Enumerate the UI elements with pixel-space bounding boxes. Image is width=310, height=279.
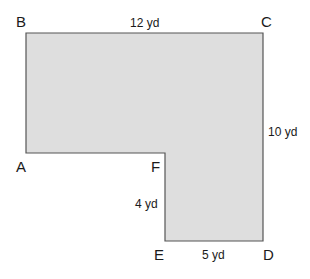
measure-cd: 10 yd — [268, 126, 297, 138]
vertex-label-f: F — [151, 159, 160, 174]
vertex-label-b: B — [16, 14, 26, 29]
measure-ed: 5 yd — [202, 249, 225, 261]
measure-bc: 12 yd — [130, 17, 159, 29]
vertex-label-a: A — [16, 159, 26, 174]
l-shape-figure — [0, 0, 310, 279]
vertex-label-d: D — [263, 247, 274, 262]
measure-fe: 4 yd — [135, 198, 158, 210]
vertex-label-c: C — [261, 14, 272, 29]
vertex-label-e: E — [154, 247, 164, 262]
